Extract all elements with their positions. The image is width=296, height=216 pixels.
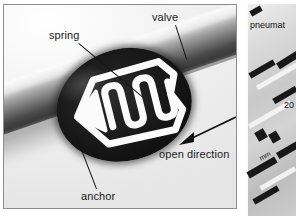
microvalve-photograph: valve spring anchor open direction (4, 5, 236, 208)
label-pneumatic: pneumat (250, 20, 285, 30)
label-dimension: 20 (284, 100, 294, 110)
label-anchor: anchor (81, 190, 115, 202)
figure-root: valve spring anchor open direction (0, 0, 296, 216)
open-direction-arrow-icon (174, 114, 236, 148)
label-spring: spring (49, 29, 80, 41)
label-valve: valve (152, 11, 178, 23)
label-open-direction: open direction (159, 148, 230, 160)
main-photo-panel: valve spring anchor open direction (3, 4, 237, 209)
right-photo-panel: pneumat 20 mm (246, 4, 296, 216)
right-photo-left-edge (246, 4, 248, 216)
